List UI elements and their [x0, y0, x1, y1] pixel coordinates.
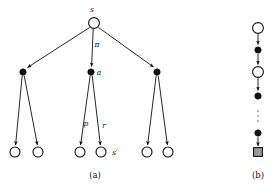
state-node-leaf-6: [163, 147, 173, 157]
edge-root-to-action-right: [99, 28, 154, 68]
vertical-ellipsis: [257, 110, 259, 122]
label-action: a: [97, 68, 101, 77]
ellipsis-dot-3: [257, 120, 259, 122]
panel-a-transition-edges-right: [148, 76, 168, 146]
action-node-b2: [255, 47, 261, 53]
action-node-center: [88, 69, 94, 75]
state-node-root: [89, 18, 100, 29]
edge-action-center-to-leaf-3: [81, 76, 91, 146]
backup-diagram-svg: s π a p r s′ (a): [0, 0, 275, 191]
action-node-right: [154, 69, 160, 75]
action-node-left: [20, 69, 26, 75]
caption-panel-a: (a): [89, 170, 101, 180]
label-policy: π: [94, 40, 101, 49]
edge-action-right-to-leaf-6: [158, 76, 167, 146]
state-node-leaf-4: [96, 147, 106, 157]
ellipsis-dot-1: [257, 110, 259, 112]
state-node-b3: [253, 67, 264, 78]
label-state-root: s: [90, 5, 94, 14]
label-next-state: s′: [112, 148, 118, 157]
state-node-leaf-2: [33, 147, 43, 157]
edge-action-center-to-leaf-4: [92, 76, 100, 146]
state-node-leaf-5: [142, 147, 152, 157]
ellipsis-dot-2: [257, 115, 259, 117]
label-reward: r: [102, 121, 106, 130]
edge-root-to-action-left: [28, 28, 90, 68]
caption-panel-b: (b): [252, 170, 264, 180]
panel-a-transition-edges-left: [16, 76, 38, 146]
state-node-b1: [253, 23, 264, 34]
state-node-leaf-1: [10, 147, 20, 157]
state-node-leaf-3: [75, 147, 85, 157]
edge-action-right-to-leaf-5: [148, 76, 157, 146]
label-probability: p: [84, 119, 89, 128]
edge-action-left-to-leaf-1: [16, 76, 23, 146]
edge-root-to-action-center: [92, 29, 94, 67]
panel-a-transition-edges-center: [81, 76, 101, 146]
panel-a: s π a p r s′ (a): [10, 5, 173, 180]
edge-action-left-to-leaf-2: [24, 76, 37, 146]
terminal-node-b6: [254, 148, 263, 157]
action-node-b5: [255, 130, 261, 136]
panel-a-policy-edges: [28, 28, 154, 68]
action-node-b4: [255, 93, 261, 99]
panel-b: (b): [252, 23, 264, 180]
figure-container: s π a p r s′ (a): [0, 0, 275, 191]
